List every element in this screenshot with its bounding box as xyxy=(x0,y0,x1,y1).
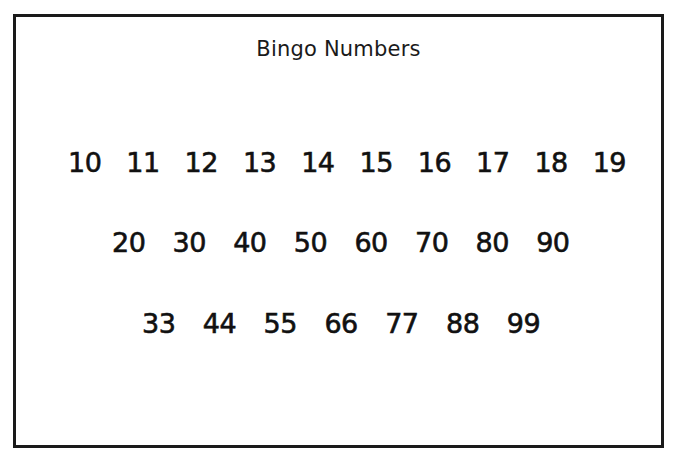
bingo-number: 99 xyxy=(507,308,568,339)
page-border-frame: Bingo Numbers 10 11 12 13 14 15 16 17 18… xyxy=(13,14,664,448)
bingo-number: 50 xyxy=(294,227,355,258)
bingo-number: 18 xyxy=(534,147,592,178)
bingo-number: 15 xyxy=(359,147,417,178)
bingo-number: 44 xyxy=(203,308,264,339)
bingo-number: 14 xyxy=(301,147,359,178)
bingo-number: 11 xyxy=(126,147,184,178)
bingo-number: 55 xyxy=(264,308,325,339)
number-row-teens: 10 11 12 13 14 15 16 17 18 19 xyxy=(68,145,651,179)
bingo-number: 77 xyxy=(385,308,446,339)
bingo-number: 40 xyxy=(233,227,294,258)
bingo-number: 20 xyxy=(112,227,173,258)
page-title: Bingo Numbers xyxy=(16,37,661,61)
bingo-number: 17 xyxy=(476,147,534,178)
bingo-number: 12 xyxy=(185,147,243,178)
bingo-number: 90 xyxy=(536,227,597,258)
bingo-number: 80 xyxy=(476,227,537,258)
bingo-number: 13 xyxy=(243,147,301,178)
bingo-number: 10 xyxy=(68,147,126,178)
bingo-number: 30 xyxy=(173,227,234,258)
bingo-number: 60 xyxy=(354,227,415,258)
bingo-number: 66 xyxy=(324,308,385,339)
bingo-number: 70 xyxy=(415,227,476,258)
number-row-tens: 20 30 40 50 60 70 80 90 xyxy=(112,225,597,259)
bingo-number: 88 xyxy=(446,308,507,339)
bingo-number: 16 xyxy=(418,147,476,178)
number-row-doubles: 33 44 55 66 77 88 99 xyxy=(142,306,568,340)
bingo-number: 33 xyxy=(142,308,203,339)
bingo-number: 19 xyxy=(593,147,651,178)
